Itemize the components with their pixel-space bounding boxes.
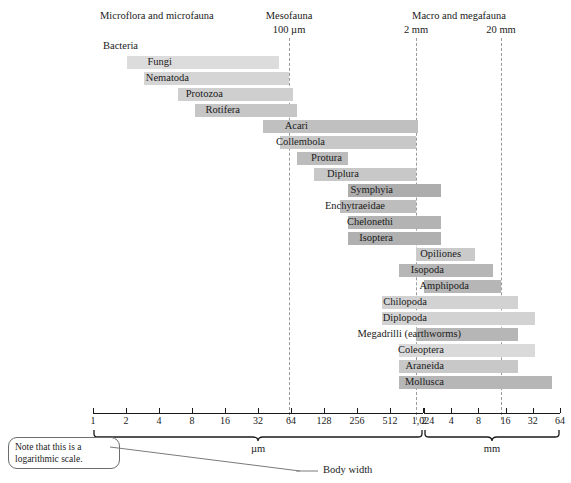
axis-tick bbox=[390, 408, 391, 413]
organism-label: Bacteria bbox=[103, 39, 141, 52]
organism-label: Opiliones bbox=[420, 247, 464, 260]
axis-tick bbox=[291, 408, 292, 413]
boundary-label: 100 µm bbox=[273, 24, 306, 35]
boundary-label: 2 mm bbox=[404, 24, 428, 35]
axis-tick bbox=[159, 408, 160, 413]
axis-tick bbox=[451, 408, 452, 413]
group-heading: Macro and megafauna bbox=[412, 10, 506, 21]
organism-label: Isopoda bbox=[411, 263, 447, 276]
organism-label: Mollusca bbox=[405, 375, 447, 388]
axis-tick-label: 8 bbox=[190, 415, 195, 426]
axis-tick-label: 8 bbox=[476, 415, 481, 426]
organism-row: Acari bbox=[0, 120, 571, 133]
axis-tick-label: 64 bbox=[286, 415, 296, 426]
organism-row: Chelonethi bbox=[0, 216, 571, 229]
axis-tick-label: 128 bbox=[317, 415, 332, 426]
axis-tick bbox=[560, 408, 561, 413]
organism-label: Chilopoda bbox=[383, 295, 430, 308]
organism-row: Isopoda bbox=[0, 264, 571, 277]
organism-row: Bacteria bbox=[0, 40, 571, 53]
organism-label: Araneida bbox=[406, 359, 447, 372]
axis-tick-label: 256 bbox=[350, 415, 365, 426]
axis-baseline bbox=[93, 413, 423, 414]
group-heading: Microflora and microfauna bbox=[100, 10, 214, 21]
axis-tick-label: 2 bbox=[124, 415, 129, 426]
axis-tick-label: 16 bbox=[501, 415, 511, 426]
axis-tick bbox=[126, 408, 127, 413]
organism-label: Coleoptera bbox=[398, 343, 447, 356]
organism-label: Enchytraeidae bbox=[325, 199, 388, 212]
organism-row: Isoptera bbox=[0, 232, 571, 245]
organism-row: Megadrilli (earthworms) bbox=[0, 328, 571, 341]
organism-row: Rotifera bbox=[0, 104, 571, 117]
axis-tick bbox=[357, 408, 358, 413]
organism-label: Acari bbox=[285, 119, 311, 132]
axis-tick-label: 4 bbox=[157, 415, 162, 426]
axis-tick-label: 16 bbox=[220, 415, 230, 426]
organism-label: Protura bbox=[311, 151, 345, 164]
axis-tick-label: 2 bbox=[422, 415, 427, 426]
axis-tick bbox=[324, 408, 325, 413]
organism-label: Diplopoda bbox=[383, 311, 430, 324]
organism-row: Fungi bbox=[0, 56, 571, 69]
organism-row: Protura bbox=[0, 152, 571, 165]
organism-row: Enchytraeidae bbox=[0, 200, 571, 213]
organism-row: Nematoda bbox=[0, 72, 571, 85]
axis-tick-label: 32 bbox=[528, 415, 538, 426]
organism-row: Coleoptera bbox=[0, 344, 571, 357]
organism-label: Symphyia bbox=[350, 183, 396, 196]
axis-tick-label: 512 bbox=[383, 415, 398, 426]
axis-tick-label: 32 bbox=[253, 415, 263, 426]
group-heading: Mesofauna bbox=[266, 10, 313, 21]
axis-tick-label: 64 bbox=[555, 415, 565, 426]
axis-tick bbox=[93, 408, 94, 413]
organism-label: Collembola bbox=[276, 135, 328, 148]
organism-row: Araneida bbox=[0, 360, 571, 373]
organism-label: Rotifera bbox=[206, 103, 243, 116]
unit-brace bbox=[424, 430, 560, 442]
organism-row: Diplura bbox=[0, 168, 571, 181]
axis-tick bbox=[478, 408, 479, 413]
axis-baseline bbox=[424, 413, 560, 414]
organism-label: Protozoa bbox=[186, 87, 226, 100]
organism-label: Amphipoda bbox=[419, 279, 472, 292]
organism-row: Symphyia bbox=[0, 184, 571, 197]
organism-row: Protozoa bbox=[0, 88, 571, 101]
organism-row: Opiliones bbox=[0, 248, 571, 261]
organism-label: Chelonethi bbox=[347, 215, 396, 228]
organism-label: Fungi bbox=[147, 55, 175, 68]
axis-unit-label: mm bbox=[484, 443, 500, 454]
soil-fauna-body-width-chart: Microflora and microfaunaMesofaunaMacro … bbox=[0, 0, 571, 483]
axis-tick-label: 4 bbox=[449, 415, 454, 426]
axis-tick bbox=[225, 408, 226, 413]
axis-tick-label: 1 bbox=[91, 415, 96, 426]
organism-label: Megadrilli (earthworms) bbox=[357, 327, 464, 340]
organism-row: Chilopoda bbox=[0, 296, 571, 309]
axis-tick bbox=[258, 408, 259, 413]
axis-tick bbox=[192, 408, 193, 413]
organism-row: Amphipoda bbox=[0, 280, 571, 293]
organism-row: Collembola bbox=[0, 136, 571, 149]
organism-row: Mollusca bbox=[0, 376, 571, 389]
organism-row: Diplopoda bbox=[0, 312, 571, 325]
organism-label: Diplura bbox=[327, 167, 362, 180]
organism-label: Isoptera bbox=[359, 231, 396, 244]
axis-tick bbox=[506, 408, 507, 413]
leader-line bbox=[0, 437, 400, 483]
axis-title: Body width bbox=[323, 464, 372, 475]
boundary-label: 20 mm bbox=[486, 24, 515, 35]
axis-tick bbox=[424, 408, 425, 413]
axis-tick bbox=[533, 408, 534, 413]
organism-label: Nematoda bbox=[146, 71, 192, 84]
